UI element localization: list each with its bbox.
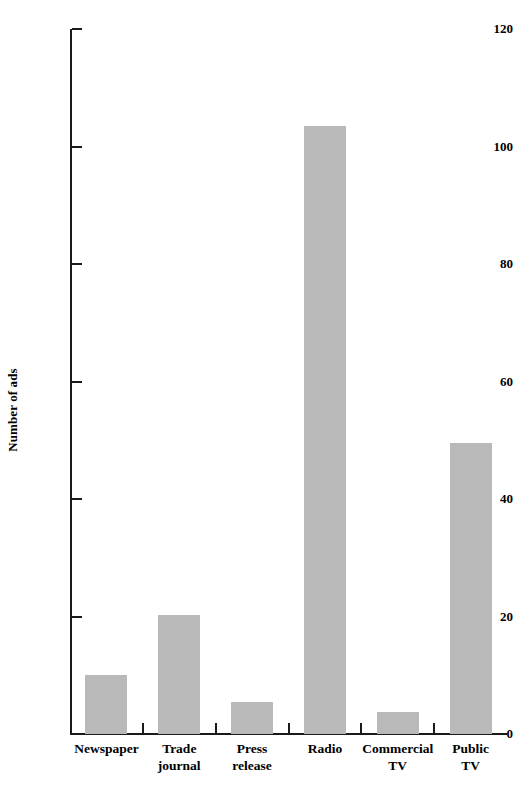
y-axis-tick xyxy=(72,616,82,618)
bar-chart: Number of ads 020406080100120 NewspaperT… xyxy=(0,0,522,786)
y-axis-tick-label: 100 xyxy=(460,140,522,153)
y-axis-tick xyxy=(72,28,82,30)
y-axis-title-text: Number of ads xyxy=(5,368,21,451)
bar xyxy=(450,443,492,734)
bar xyxy=(231,702,273,734)
bar xyxy=(377,712,419,734)
x-axis-category-label: Public TV xyxy=(413,740,522,775)
bar xyxy=(304,126,346,734)
x-axis-tick xyxy=(433,723,435,734)
x-axis-tick xyxy=(142,723,144,734)
y-axis-tick-label: 60 xyxy=(460,375,522,388)
bar xyxy=(158,615,200,734)
y-axis-tick xyxy=(72,263,82,265)
y-axis-tick xyxy=(72,146,82,148)
y-axis-tick-label: 80 xyxy=(460,257,522,270)
y-axis-tick-label: 120 xyxy=(460,22,522,35)
y-axis-tick xyxy=(72,498,82,500)
x-axis-tick xyxy=(215,723,217,734)
y-axis-title: Number of ads xyxy=(0,0,26,786)
x-axis-tick xyxy=(360,723,362,734)
y-axis-tick xyxy=(72,381,82,383)
x-axis-tick xyxy=(288,723,290,734)
bar xyxy=(85,675,127,734)
